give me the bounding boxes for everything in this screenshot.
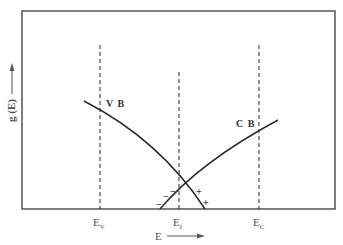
minus-sign: − [156,199,162,210]
plus-sign: + [196,186,202,197]
plus-sign: + [203,197,209,208]
ev-label: EV [93,216,105,231]
ef-label: Ef [173,216,183,231]
valence-band-curve [84,101,205,209]
ec-label: EC [253,216,265,231]
x-axis-label: E [155,230,162,242]
minus-sign: − [170,186,176,197]
ec-label-sub: C [260,223,265,231]
ev-label-sub: V [100,223,105,231]
conduction-band-curve [160,120,278,209]
ef-label-sub: f [180,223,183,231]
density-of-states-diagram: V B C B − − − + + EV Ef EC E g (E) [0,0,343,245]
y-axis-label: g (E) [5,99,18,122]
y-axis-arrow-icon [10,63,15,94]
minus-sign: − [163,191,169,202]
cb-label: C B [236,118,255,129]
x-axis-arrow-icon [167,234,205,239]
vb-label: V B [106,98,125,109]
